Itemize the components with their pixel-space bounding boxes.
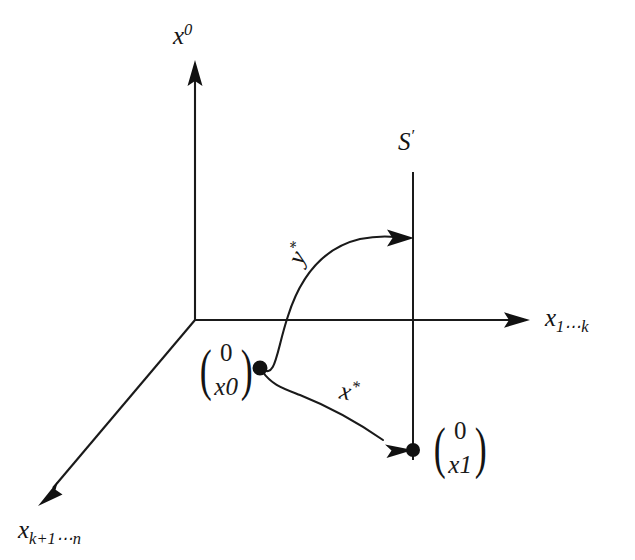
x-star-arrow [262, 371, 413, 458]
diagram-canvas: x0 x1⋯k xk+1⋯n S′ y* x* ( 0 x0 ) ( 0 x1 … [0, 0, 635, 560]
axis-label-x1k-base: x [545, 304, 556, 331]
vector-x0-entry-bottom-base: x [214, 373, 225, 400]
axis-label-x-superscript-0: x0 [173, 22, 192, 48]
y-star-arrowhead [387, 230, 414, 247]
vector-x0-right-paren: ) [241, 347, 253, 392]
vector-x1-right-paren: ) [475, 425, 487, 470]
s-prime-label-prime: ′ [411, 126, 415, 145]
diagram-vector-layer [0, 0, 635, 560]
vector-x0-entry-bottom: x0 [214, 374, 238, 399]
x-star-arrow-path [262, 371, 383, 440]
vector-x1-entry-bottom-subscript: 1 [459, 451, 472, 478]
horizontal-axis [195, 312, 530, 328]
s-prime-label-base: S [398, 128, 411, 155]
s-prime-label: S′ [398, 128, 414, 154]
axis-label-xk1n-subscript: k+1⋯n [29, 529, 81, 548]
vector-x0-entry-top: 0 [220, 340, 233, 365]
vector-x1-entry-bottom-base: x [448, 451, 459, 478]
target-point [406, 443, 420, 457]
vector-x1-entry-bottom: x1 [448, 452, 472, 477]
axis-label-xk1n-base: x [18, 516, 29, 543]
vector-x0-left-paren: ( [200, 347, 212, 392]
axis-label-x0-superscript: 0 [184, 20, 192, 39]
vector-x1-entries: 0 x1 [447, 418, 473, 477]
vector-x1-left-paren: ( [434, 425, 446, 470]
axis-label-x0-base: x [173, 22, 184, 49]
axis-label-x-1-to-k: x1⋯k [545, 305, 589, 336]
column-vector-x1: ( 0 x1 ) [430, 418, 490, 477]
vector-x0-entry-bottom-subscript: 0 [225, 373, 238, 400]
vector-x0-entries: 0 x0 [213, 340, 239, 399]
axis-label-x-k-plus-1-to-n: xk+1⋯n [18, 517, 81, 548]
vertical-axis [188, 60, 203, 320]
column-vector-x0: ( 0 x0 ) [196, 340, 256, 399]
vector-x1-entry-top: 0 [454, 418, 467, 443]
axis-label-x1k-subscript: 1⋯k [556, 317, 589, 336]
diagonal-axis-arrowhead [38, 481, 63, 506]
diagonal-axis [38, 320, 195, 506]
diagonal-axis-line [53, 320, 195, 488]
